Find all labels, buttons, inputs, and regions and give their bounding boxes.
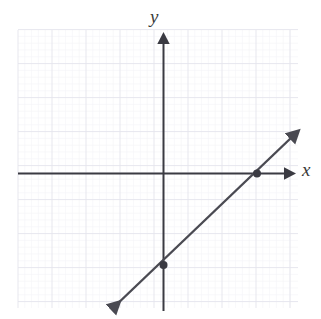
graph-figure: y x [0,0,321,319]
plotted-line [113,137,292,308]
y-intercept-point [160,261,168,269]
x-axis-label: x [302,160,310,179]
y-axis-label: y [150,7,158,26]
x-intercept-point [253,170,261,178]
coordinate-plane-svg [0,0,321,319]
